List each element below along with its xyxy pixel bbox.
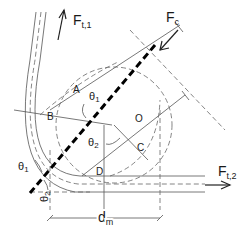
label-ft2: Ft,2 <box>218 163 237 181</box>
label-point-d: D <box>96 166 103 177</box>
arrow-fc <box>160 30 178 50</box>
label-point-a: A <box>73 84 80 95</box>
arrow-ft1 <box>58 10 66 40</box>
frame-lines <box>14 22 225 210</box>
label-theta2-center: θ2 <box>88 136 99 150</box>
label-point-c: C <box>137 142 144 153</box>
arrow-ft2 <box>205 181 230 189</box>
label-theta1-center: θ1 <box>89 90 100 104</box>
label-point-o: O <box>135 113 143 124</box>
label-theta2-left: θ2 <box>38 191 52 202</box>
label-ft1: Ft,1 <box>73 12 92 30</box>
pulley-diagram: Ft,1 Fc Ft,2 A B O C D θ1 θ2 θ1 θ2 dm <box>0 0 247 241</box>
label-dm: dm <box>98 209 113 227</box>
label-theta1-left: θ1 <box>18 160 29 174</box>
label-point-b: B <box>47 111 54 122</box>
label-fc: Fc <box>166 9 180 27</box>
